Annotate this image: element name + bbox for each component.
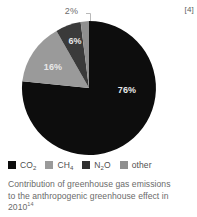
pie-label-ch4: 16% [44, 62, 62, 72]
legend-swatch-other [120, 161, 128, 169]
pie-label-other: 2% [65, 6, 78, 16]
figure-caption-reference: 14 [27, 201, 33, 207]
legend-label-n2o: N2O [94, 161, 110, 170]
legend-item-other[interactable]: other [120, 161, 152, 170]
legend-swatch-ch4 [45, 161, 53, 169]
chart-legend: CO2 CH4 N2O other [8, 161, 192, 170]
pie-chart-svg: 76% 16% 6% 2% [0, 0, 197, 160]
leader-line-other [86, 14, 91, 22]
legend-item-n2o[interactable]: N2O [82, 161, 110, 170]
figure-caption: Contribution of greenhouse gas emissions… [8, 179, 178, 214]
pie-chart: 76% 16% 6% 2% [0, 0, 197, 160]
legend-swatch-co2 [8, 161, 16, 169]
legend-label-ch4: CH4 [57, 161, 73, 170]
legend-label-other: other [132, 161, 152, 170]
pie-label-n2o: 6% [68, 36, 81, 46]
legend-item-co2[interactable]: CO2 [8, 161, 36, 170]
legend-swatch-n2o [82, 161, 90, 169]
legend-label-co2: CO2 [20, 161, 36, 170]
pie-label-co2: 76% [118, 85, 136, 95]
legend-item-ch4[interactable]: CH4 [45, 161, 73, 170]
